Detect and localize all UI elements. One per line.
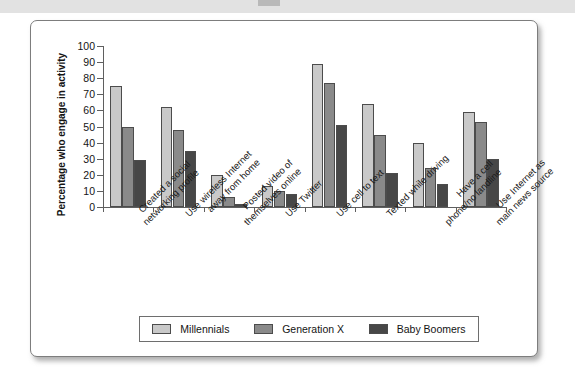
y-axis-title: Percentage who engage in activity xyxy=(56,45,67,225)
legend-label: Millennials xyxy=(180,323,229,335)
y-axis-tick-label: 100 xyxy=(77,40,95,52)
y-axis-tick-label: 30 xyxy=(83,153,95,165)
page-root: Percentage who engage in activity 100908… xyxy=(0,0,575,377)
chart-card: Percentage who engage in activity 100908… xyxy=(30,20,538,357)
bar xyxy=(336,125,348,207)
y-axis-tick-label: 20 xyxy=(83,169,95,181)
y-axis-tick-label: 80 xyxy=(83,72,95,84)
legend-swatch xyxy=(152,324,171,334)
bar-chart: Percentage who engage in activity 100908… xyxy=(31,21,539,358)
y-axis-tick-label: 70 xyxy=(83,88,95,100)
legend-item: Generation X xyxy=(254,323,344,335)
bar xyxy=(122,127,134,208)
legend-item: Baby Boomers xyxy=(369,323,466,335)
legend-item: Millennials xyxy=(152,323,229,335)
legend-label: Baby Boomers xyxy=(397,323,466,335)
bar xyxy=(324,83,336,207)
y-axis-tick-label: 40 xyxy=(83,137,95,149)
scan-edge-band xyxy=(0,0,575,13)
x-axis-category-labels: Created a socialnetworking profileUse wi… xyxy=(103,211,506,306)
y-axis-tick-label: 90 xyxy=(83,56,95,68)
bar-group xyxy=(103,46,153,207)
legend-label: Generation X xyxy=(282,323,344,335)
y-axis-tick-label: 0 xyxy=(89,201,95,213)
bar xyxy=(110,86,122,207)
scan-edge-mark xyxy=(258,0,280,6)
legend-swatch xyxy=(369,324,388,334)
legend-swatch xyxy=(254,324,273,334)
y-axis-tick-label: 50 xyxy=(83,121,95,133)
y-axis-tick-label: 10 xyxy=(83,185,95,197)
chart-legend: MillennialsGeneration XBaby Boomers xyxy=(139,316,479,342)
y-axis-tick-label: 60 xyxy=(83,104,95,116)
